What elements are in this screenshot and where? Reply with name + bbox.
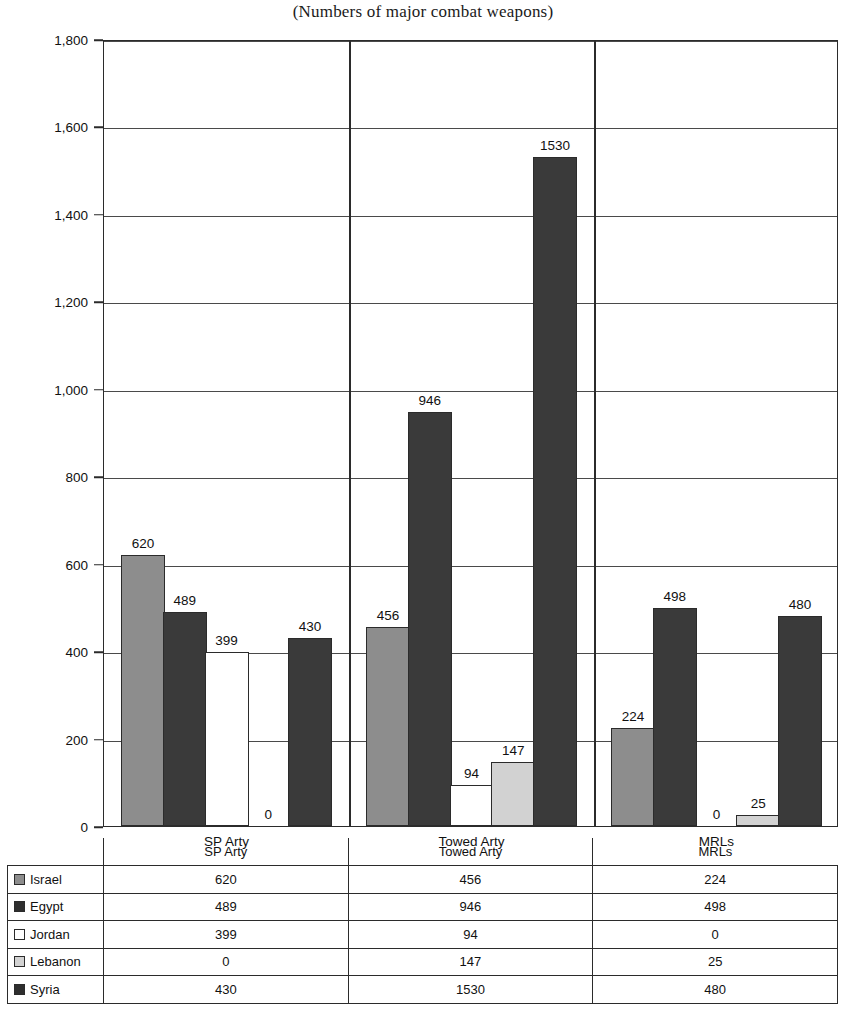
table-cell: 946 — [348, 893, 593, 921]
bar-value-label: 25 — [751, 796, 766, 811]
y-axis-tick-mark — [94, 476, 103, 478]
bar-syria-sp-arty — [288, 638, 332, 826]
gridline — [104, 216, 837, 217]
bar-value-label: 0 — [713, 807, 721, 822]
bar-syria-mrls — [778, 616, 822, 826]
table-cell: 489 — [103, 893, 348, 921]
table-cell: 224 — [593, 866, 838, 894]
group-separator — [349, 41, 351, 826]
bar-jordan-sp-arty — [205, 652, 249, 826]
bar-value-label: 489 — [173, 593, 196, 608]
legend-label: Israel — [30, 872, 62, 887]
legend-label: Egypt — [30, 899, 63, 914]
y-axis-tick-label: 1,200 — [4, 295, 88, 310]
y-axis-tick-label: 1,600 — [4, 120, 88, 135]
table-corner-header — [8, 838, 104, 866]
gridline — [104, 303, 837, 304]
table-body: Israel620456224Egypt489946498Jordan39994… — [8, 866, 838, 1004]
table-cell: 620 — [103, 866, 348, 894]
table-header-sp-arty: SP Arty — [103, 838, 348, 866]
data-table: SP Arty Towed Arty MRLs Israel620456224E… — [7, 838, 838, 1004]
legend-cell-israel: Israel — [8, 866, 104, 894]
gridline — [104, 128, 837, 129]
bar-israel-sp-arty — [121, 555, 165, 826]
y-axis-tick-label: 1,400 — [4, 207, 88, 222]
bar-egypt-mrls — [653, 608, 697, 826]
bar-jordan-towed-arty — [450, 785, 494, 826]
table-header-row: SP Arty Towed Arty MRLs — [8, 838, 838, 866]
y-axis-tick-mark — [94, 214, 103, 216]
bar-value-label: 456 — [377, 608, 400, 623]
table-cell: 480 — [593, 976, 838, 1004]
y-axis-tick-label: 400 — [4, 645, 88, 660]
legend-swatch-icon — [14, 984, 25, 995]
legend-label: Jordan — [30, 927, 70, 942]
legend-swatch-icon — [14, 901, 25, 912]
bar-syria-towed-arty — [533, 157, 577, 826]
y-axis-tick-mark — [94, 39, 103, 41]
y-axis-tick-mark — [94, 564, 103, 566]
y-axis-tick-mark — [94, 127, 103, 129]
y-axis-tick-label: 200 — [4, 732, 88, 747]
gridline — [104, 478, 837, 479]
bar-value-label: 94 — [464, 766, 479, 781]
bar-value-label: 498 — [663, 589, 686, 604]
table-header-towed-arty: Towed Arty — [348, 838, 593, 866]
table-cell: 430 — [103, 976, 348, 1004]
bar-lebanon-towed-arty — [491, 762, 535, 826]
y-axis-tick-label: 800 — [4, 470, 88, 485]
table-cell: 456 — [348, 866, 593, 894]
table-cell: 0 — [103, 948, 348, 976]
legend-label: Lebanon — [30, 954, 81, 969]
bar-value-label: 430 — [299, 619, 322, 634]
table-cell: 1530 — [348, 976, 593, 1004]
y-axis-tick-mark — [94, 826, 103, 828]
gridline — [104, 41, 837, 42]
y-axis-tick-label: 1,800 — [4, 33, 88, 48]
legend-label: Syria — [30, 982, 60, 997]
legend-cell-lebanon: Lebanon — [8, 948, 104, 976]
table-cell: 0 — [593, 921, 838, 949]
legend-swatch-icon — [14, 874, 25, 885]
bar-value-label: 224 — [622, 709, 645, 724]
legend-cell-syria: Syria — [8, 976, 104, 1004]
bar-value-label: 946 — [418, 393, 441, 408]
y-axis-tick-label: 600 — [4, 557, 88, 572]
table-cell: 498 — [593, 893, 838, 921]
bar-lebanon-mrls — [736, 815, 780, 826]
bar-value-label: 620 — [132, 536, 155, 551]
gridline — [104, 391, 837, 392]
bar-value-label: 147 — [502, 743, 525, 758]
table-header-mrls: MRLs — [593, 838, 838, 866]
legend-swatch-icon — [14, 956, 25, 967]
plot-area: 6204893990430SP Arty456946941471530Towed… — [103, 40, 838, 827]
y-axis-tick-mark — [94, 739, 103, 741]
y-axis-tick-mark — [94, 389, 103, 391]
table-row: Syria4301530480 — [8, 976, 838, 1004]
table-row: Israel620456224 — [8, 866, 838, 894]
legend-cell-jordan: Jordan — [8, 921, 104, 949]
y-axis-tick-mark — [94, 651, 103, 653]
table-row: Egypt489946498 — [8, 893, 838, 921]
table-row: Jordan399940 — [8, 921, 838, 949]
y-axis-tick-label: 0 — [4, 820, 88, 835]
bar-value-label: 0 — [265, 807, 273, 822]
group-separator — [594, 41, 596, 826]
bar-value-label: 399 — [215, 633, 238, 648]
table-cell: 147 — [348, 948, 593, 976]
table-cell: 94 — [348, 921, 593, 949]
bar-israel-mrls — [611, 728, 655, 826]
y-axis-tick-label: 1,000 — [4, 382, 88, 397]
table-row: Lebanon014725 — [8, 948, 838, 976]
bar-egypt-sp-arty — [163, 612, 207, 826]
bar-egypt-towed-arty — [408, 412, 452, 826]
bar-value-label: 1530 — [540, 138, 570, 153]
table-cell: 399 — [103, 921, 348, 949]
table-cell: 25 — [593, 948, 838, 976]
y-axis-tick-mark — [94, 302, 103, 304]
chart-title: (Numbers of major combat weapons) — [0, 2, 846, 22]
bar-value-label: 480 — [789, 597, 812, 612]
legend-cell-egypt: Egypt — [8, 893, 104, 921]
legend-swatch-icon — [14, 929, 25, 940]
gridline — [104, 566, 837, 567]
